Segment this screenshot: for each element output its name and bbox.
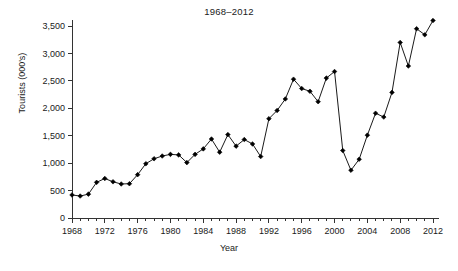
x-tick-label: 1992 xyxy=(259,226,279,236)
y-tick-mark-group xyxy=(68,26,72,218)
data-point-marker xyxy=(160,154,165,159)
data-point-markers xyxy=(70,18,436,198)
data-point-marker xyxy=(258,154,263,159)
x-tick-label: 1988 xyxy=(226,226,246,236)
y-tick-label: 2,000 xyxy=(42,103,65,113)
data-point-marker xyxy=(431,18,436,23)
data-point-marker xyxy=(381,115,386,120)
x-tick-label: 2004 xyxy=(357,226,377,236)
x-tick-label: 1968 xyxy=(62,226,82,236)
data-point-marker xyxy=(365,133,370,138)
data-point-marker xyxy=(398,40,403,45)
data-point-marker xyxy=(373,111,378,116)
data-point-marker xyxy=(217,150,222,155)
data-point-marker xyxy=(390,90,395,95)
data-point-marker xyxy=(168,152,173,157)
data-point-marker xyxy=(152,156,157,161)
x-tick-label: 1972 xyxy=(95,226,115,236)
y-tick-label: 1,000 xyxy=(42,158,65,168)
x-tick-label: 1980 xyxy=(160,226,180,236)
x-tick-mark-group xyxy=(72,218,433,223)
data-series-line xyxy=(72,21,433,197)
data-point-marker xyxy=(70,193,75,198)
data-point-marker xyxy=(111,179,116,184)
x-tick-label: 1996 xyxy=(292,226,312,236)
data-point-marker xyxy=(119,182,124,187)
y-tick-label: 0 xyxy=(60,213,65,223)
x-tick-label: 1976 xyxy=(128,226,148,236)
y-tick-label: 2,500 xyxy=(42,76,65,86)
x-tick-label: 2012 xyxy=(423,226,443,236)
data-point-marker xyxy=(103,176,108,181)
data-point-marker xyxy=(78,194,83,199)
tourists-line-chart: 1968–2012 Tourists (000's) Year 05001,00… xyxy=(0,0,458,271)
y-tick-label: 500 xyxy=(50,186,65,196)
plot-area: 05001,0001,5002,0002,5003,0003,500 19681… xyxy=(0,0,458,271)
x-tick-label-group: 1968197219761980198419881992199620002004… xyxy=(62,226,443,236)
y-tick-label: 3,000 xyxy=(42,49,65,59)
y-tick-label: 3,500 xyxy=(42,21,65,31)
data-point-marker xyxy=(250,142,255,147)
y-tick-label-group: 05001,0001,5002,0002,5003,0003,500 xyxy=(42,21,65,223)
data-point-marker xyxy=(340,148,345,153)
y-tick-label: 1,500 xyxy=(42,131,65,141)
x-tick-label: 2000 xyxy=(325,226,345,236)
x-tick-label: 2008 xyxy=(390,226,410,236)
x-tick-label: 1984 xyxy=(193,226,213,236)
data-point-marker xyxy=(406,64,411,69)
